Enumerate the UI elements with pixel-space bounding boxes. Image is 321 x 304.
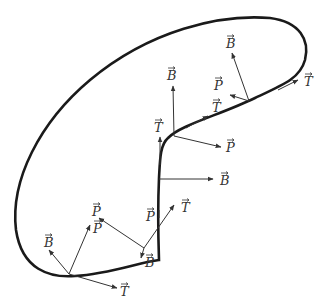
p-label-4: P bbox=[225, 140, 235, 155]
p-label-5: P bbox=[213, 78, 223, 93]
frame-2: T P B bbox=[91, 200, 191, 270]
b-label-4: B bbox=[166, 68, 177, 83]
p-vector-2 bbox=[99, 218, 144, 248]
p-label-2: P bbox=[91, 204, 101, 219]
frame-5: B P bbox=[213, 36, 249, 101]
b-vector-2 bbox=[141, 248, 144, 258]
b-vector-1 bbox=[49, 250, 69, 274]
frame-1: T P B bbox=[43, 221, 130, 299]
p-label-1: P bbox=[92, 221, 102, 236]
b-vector-5 bbox=[232, 53, 249, 101]
b-vector-4 bbox=[173, 86, 174, 136]
b-label-1: B bbox=[43, 235, 54, 250]
b-label-5: B bbox=[225, 36, 236, 51]
b-label-3: B bbox=[219, 173, 230, 188]
t-label-1: T bbox=[120, 284, 130, 299]
vector-overbars bbox=[45, 35, 312, 286]
t-vector-1 bbox=[69, 274, 117, 288]
p-vector-1 bbox=[69, 225, 90, 274]
t-label-6: T bbox=[304, 74, 314, 89]
frenet-frame-diagram: T P B T P B B P T B P T B P T bbox=[0, 0, 321, 304]
p-vector-5 bbox=[230, 95, 249, 101]
frame-4: T B P T bbox=[154, 68, 235, 165]
closed-curve bbox=[15, 17, 306, 276]
b-label-2: B bbox=[144, 255, 155, 270]
p-label-3: P bbox=[145, 209, 155, 224]
t-vector-5 bbox=[186, 116, 208, 128]
t-label-5: T bbox=[212, 100, 222, 115]
p-vector-4 bbox=[174, 136, 221, 147]
t-label-2: T bbox=[181, 200, 191, 215]
t-label-4: T bbox=[154, 120, 164, 135]
